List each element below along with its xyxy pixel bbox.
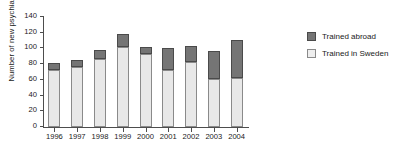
- y-tick-label: 120: [24, 27, 37, 36]
- bar-1996: [48, 63, 60, 127]
- y-tick: 140: [40, 16, 44, 17]
- bar-segment-sweden-1998: [94, 59, 106, 127]
- bar-segment-sweden-1999: [117, 47, 129, 127]
- y-axis-title: Number of new psychiatrists: [7, 0, 16, 88]
- y-tick: 0: [40, 126, 44, 127]
- y-tick: 120: [40, 32, 44, 33]
- x-tick-label: 2004: [223, 132, 251, 141]
- bar-segment-abroad-1996: [48, 63, 60, 69]
- bar-2002: [185, 46, 197, 127]
- bar-1999: [117, 34, 129, 127]
- y-tick: 60: [40, 79, 44, 80]
- bar-segment-abroad-2000: [140, 47, 152, 54]
- y-tick: 40: [40, 95, 44, 96]
- y-tick: 100: [40, 47, 44, 48]
- y-tick-label: 140: [24, 11, 37, 20]
- bar-segment-abroad-1999: [117, 34, 129, 47]
- bar-segment-abroad-1998: [94, 50, 106, 59]
- legend-swatch-icon-abroad: [307, 32, 316, 41]
- bar-2000: [140, 47, 152, 127]
- chart-legend: Trained abroad Trained in Sweden: [307, 29, 388, 63]
- bar-segment-sweden-1997: [71, 67, 83, 128]
- bar-segment-sweden-2002: [185, 62, 197, 127]
- plot-area: 020406080100120140 199619971998199920002…: [43, 18, 248, 128]
- bar-segment-sweden-2000: [140, 54, 152, 127]
- bar-segment-sweden-2003: [208, 79, 220, 127]
- bar-segment-abroad-2001: [162, 48, 174, 70]
- bar-1997: [71, 60, 83, 127]
- bar-2001: [162, 48, 174, 127]
- y-tick: 20: [40, 110, 44, 111]
- bar-2003: [208, 51, 220, 127]
- y-tick-label: 100: [24, 42, 37, 51]
- legend-item-trained-in-sweden: Trained in Sweden: [307, 46, 388, 60]
- bar-segment-abroad-2004: [231, 40, 243, 79]
- bar-1998: [94, 50, 106, 127]
- bar-segment-sweden-2004: [231, 78, 243, 127]
- legend-swatch-icon-sweden: [307, 49, 316, 58]
- y-tick-label: 40: [29, 90, 37, 99]
- bar-segment-sweden-2001: [162, 70, 174, 127]
- y-tick-label: 60: [29, 74, 37, 83]
- y-tick-label: 0: [33, 121, 37, 130]
- y-tick-label: 80: [29, 58, 37, 67]
- legend-label-sweden: Trained in Sweden: [322, 49, 388, 58]
- y-tick: 80: [40, 63, 44, 64]
- legend-item-trained-abroad: Trained abroad: [307, 29, 388, 43]
- bar-2004: [231, 40, 243, 127]
- chart-figure: Number of new psychiatrists 020406080100…: [0, 0, 408, 157]
- bar-segment-abroad-1997: [71, 60, 83, 66]
- bar-segment-sweden-1996: [48, 70, 60, 127]
- y-tick-label: 20: [29, 105, 37, 114]
- bar-segment-abroad-2003: [208, 51, 220, 79]
- bar-segment-abroad-2002: [185, 46, 197, 62]
- legend-label-abroad: Trained abroad: [322, 32, 376, 41]
